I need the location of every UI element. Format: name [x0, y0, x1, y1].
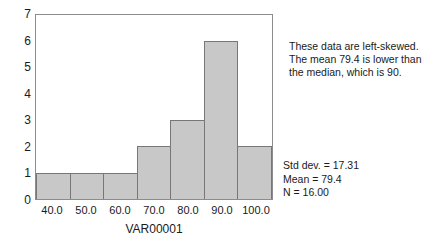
annotation-line: The mean 79.4 is lower than [289, 53, 441, 66]
x-tick-label: 40.0 [35, 203, 69, 219]
x-tick-label: 50.0 [69, 203, 103, 219]
histogram-bar [204, 41, 239, 199]
histogram-figure: 01234567 40.050.060.070.080.090.0100.0 V… [0, 0, 282, 247]
x-axis-title: VAR00001 [35, 222, 273, 236]
y-tick-label: 7 [0, 8, 31, 20]
annotation-line: These data are left-skewed. [289, 40, 441, 53]
x-tick-label: 80.0 [171, 203, 205, 219]
histogram-bar [170, 120, 205, 199]
histogram-bar [103, 173, 138, 199]
y-tick-label: 2 [0, 141, 31, 153]
histogram-bar [70, 173, 105, 199]
bars-container [36, 15, 272, 199]
y-tick-label: 1 [0, 167, 31, 179]
annotation-line: the median, which is 90. [289, 66, 441, 79]
statistic-line: N = 16.00 [283, 186, 438, 200]
y-tick-label: 4 [0, 88, 31, 100]
plot-area [35, 14, 273, 200]
skew-note-annotation: These data are left-skewed.The mean 79.4… [289, 40, 441, 79]
x-tick-label: 60.0 [103, 203, 137, 219]
statistic-line: Mean = 79.4 [283, 173, 438, 187]
x-tick-label: 70.0 [137, 203, 171, 219]
y-tick-label: 5 [0, 61, 31, 73]
x-tick-label: 100.0 [239, 203, 273, 219]
y-tick-label: 0 [0, 194, 31, 206]
x-axis: 40.050.060.070.080.090.0100.0 [35, 203, 273, 219]
y-tick-label: 3 [0, 114, 31, 126]
histogram-bar [137, 146, 172, 199]
histogram-bar [237, 146, 272, 199]
y-tick-label: 6 [0, 35, 31, 47]
y-axis: 01234567 [0, 0, 31, 247]
histogram-bar [36, 173, 71, 199]
x-tick-label: 90.0 [205, 203, 239, 219]
statistic-line: Std dev. = 17.31 [283, 159, 438, 173]
statistics-annotation: Std dev. = 17.31Mean = 79.4N = 16.00 [283, 159, 438, 200]
